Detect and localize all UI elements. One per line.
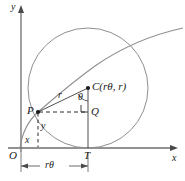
y-axis-arrowhead: [18, 5, 24, 13]
point-C-dot: [86, 86, 90, 90]
dimension-arrow-right: [81, 163, 88, 168]
x-axis-arrowhead: [170, 145, 178, 151]
angle-label-theta: θ: [78, 92, 83, 102]
cycloid-figure: y x O P C(rθ, r) Q T r θ y x rθ: [0, 0, 185, 181]
point-label-T: T: [84, 150, 90, 161]
right-angle-marker: [81, 105, 88, 112]
point-label-C: C(rθ, r): [92, 81, 126, 92]
point-label-Q: Q: [91, 106, 99, 117]
horizontal-leg-label-x: x: [25, 135, 29, 145]
radius-label: r: [58, 90, 62, 100]
vertical-leg-label-y: y: [41, 121, 45, 131]
x-axis-label: x: [172, 153, 176, 163]
y-axis-label: y: [11, 2, 15, 12]
dimension-line-arc-length: [21, 152, 88, 172]
origin-label: O: [9, 150, 17, 161]
y-axis: [18, 5, 24, 152]
point-P-dot: [36, 110, 40, 114]
arc-length-label: rθ: [45, 160, 54, 170]
point-label-P: P: [27, 105, 34, 116]
dimension-arrow-left: [21, 163, 28, 168]
